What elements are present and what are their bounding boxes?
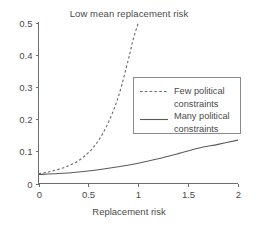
x-tick-label-4: 2 xyxy=(236,189,241,200)
chart-figure: Low mean replacement risk 00.10.20.30.40… xyxy=(0,0,258,235)
chart-plot-area: 00.10.20.30.40.5 00.511.52 Replacement r… xyxy=(0,0,258,235)
chart-legend: Few political constraints Many political… xyxy=(134,78,241,135)
x-axis-tick-labels: 00.511.52 xyxy=(37,189,241,200)
legend-label-1-line2: constraints xyxy=(174,124,219,134)
legend-label-1-line1: Many political xyxy=(174,111,230,121)
y-tick-label-4: 0.4 xyxy=(19,50,32,61)
y-tick-label-2: 0.2 xyxy=(19,114,32,125)
legend-label-0-line2: constraints xyxy=(174,99,219,109)
x-axis-title: Replacement risk xyxy=(92,206,166,217)
series-many-political-constraints xyxy=(39,140,239,174)
x-tick-label-1: 0.5 xyxy=(82,189,95,200)
y-tick-label-1: 0.1 xyxy=(19,146,32,157)
x-tick-label-2: 1 xyxy=(136,189,141,200)
x-tick-label-3: 1.5 xyxy=(182,189,195,200)
y-axis-tick-labels: 00.10.20.30.40.5 xyxy=(19,18,32,190)
y-tick-label-3: 0.3 xyxy=(19,82,32,93)
y-tick-label-5: 0.5 xyxy=(19,18,32,29)
legend-label-0-line1: Few political xyxy=(174,86,225,96)
series-few-political-constraints xyxy=(39,23,139,174)
y-tick-label-0: 0 xyxy=(27,179,32,190)
x-tick-label-0: 0 xyxy=(37,189,42,200)
